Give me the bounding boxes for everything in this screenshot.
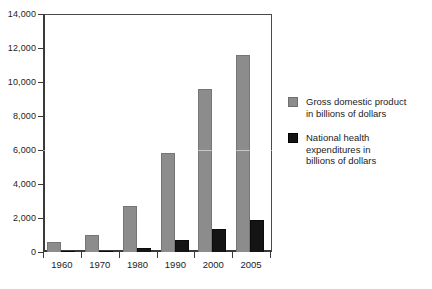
y-axis-tick-label: 8,000 (13, 112, 36, 121)
x-axis-tick-label-1960: 1960 (51, 259, 72, 271)
bar-gdp-1960 (47, 242, 61, 252)
y-axis-labels: 02,0004,0006,0008,00010,00012,00014,000 (0, 14, 36, 252)
bar-gdp-1970 (85, 235, 99, 252)
legend-label-line: expenditures in (306, 144, 428, 156)
x-axis-tick-mark (194, 252, 195, 258)
x-axis-tick-mark (157, 252, 158, 258)
bars-layer (45, 14, 272, 252)
x-axis-tick-mark (232, 252, 233, 258)
legend-label-line: billions of dollars (306, 155, 428, 167)
gray-square-swatch (288, 97, 298, 107)
bar-gdp-1980 (123, 206, 137, 252)
x-axis-tick-label-1980: 1980 (127, 259, 148, 271)
x-axis-tick-label-2000: 2000 (203, 259, 224, 271)
bar-gdp-2005 (236, 55, 250, 252)
legend-label-line: National health (306, 132, 428, 144)
x-axis-tick-label-1990: 1990 (165, 259, 186, 271)
legend-entry-health: National healthexpenditures inbillions o… (288, 132, 428, 167)
legend-label-line: Gross domestic product (306, 96, 428, 108)
x-axis-tick-marks (43, 252, 272, 258)
legend-label-line: in billions of dollars (306, 108, 428, 120)
y-axis-tick-label: 0 (31, 248, 36, 257)
bar-health-2000 (212, 229, 226, 252)
y-axis-tick-label: 12,000 (8, 44, 36, 53)
x-axis-tick-mark (119, 252, 120, 258)
bar-health-2005 (250, 220, 264, 252)
y-axis-tick-label: 6,000 (13, 146, 36, 155)
bar-health-1990 (175, 240, 189, 252)
y-axis-tick-label: 2,000 (13, 214, 36, 223)
x-axis-tick-mark (43, 252, 44, 258)
bar-gdp-2000 (198, 89, 212, 252)
y-axis-tick-label: 4,000 (13, 180, 36, 189)
x-axis-tick-label-1970: 1970 (89, 259, 110, 271)
black-square-swatch (288, 133, 298, 143)
x-axis-labels: 196019701980199020002005 (43, 259, 272, 273)
chart-legend: Gross domestic productin billions of dol… (288, 96, 428, 180)
x-axis-tick-mark (81, 252, 82, 258)
x-axis-tick-label-2005: 2005 (241, 259, 262, 271)
y-axis-tick-label: 10,000 (8, 78, 36, 87)
y-axis-tick-label: 14,000 (8, 10, 36, 19)
bar-chart-figure: 02,0004,0006,0008,00010,00012,00014,000 … (0, 0, 432, 289)
x-axis-tick-mark (270, 252, 271, 258)
legend-entry-gdp: Gross domestic productin billions of dol… (288, 96, 428, 119)
bar-gdp-1990 (161, 153, 175, 252)
